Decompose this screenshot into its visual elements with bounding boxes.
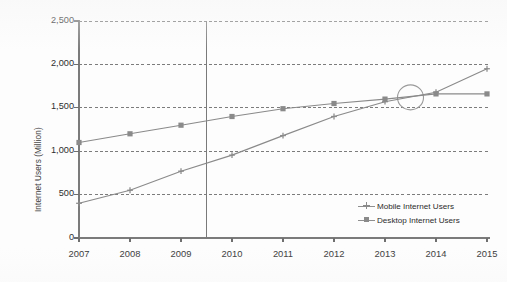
legend-label-desktop: Desktop Internet Users bbox=[377, 214, 460, 228]
chart-figure: Internet Users (Million) 05001,0001,5002… bbox=[0, 0, 507, 282]
data-series-layer bbox=[76, 66, 490, 206]
data-point-marker bbox=[331, 101, 336, 106]
data-point-marker bbox=[280, 106, 285, 111]
series-mobile bbox=[76, 66, 490, 206]
data-point-marker bbox=[127, 131, 132, 136]
legend-item-mobile: Mobile Internet Users bbox=[358, 200, 460, 214]
legend-marker-square-icon bbox=[358, 216, 375, 225]
legend-label-mobile: Mobile Internet Users bbox=[377, 200, 454, 214]
chart-legend: Mobile Internet Users Desktop Internet U… bbox=[358, 200, 460, 227]
data-point-marker bbox=[178, 123, 183, 128]
data-point-marker bbox=[484, 91, 489, 96]
legend-marker-cross-icon bbox=[358, 202, 375, 211]
data-point-marker bbox=[229, 114, 234, 119]
plot-area bbox=[0, 0, 507, 282]
data-point-marker bbox=[433, 91, 438, 96]
data-point-marker bbox=[76, 140, 81, 145]
legend-item-desktop: Desktop Internet Users bbox=[358, 214, 460, 228]
data-point-marker bbox=[382, 97, 387, 102]
